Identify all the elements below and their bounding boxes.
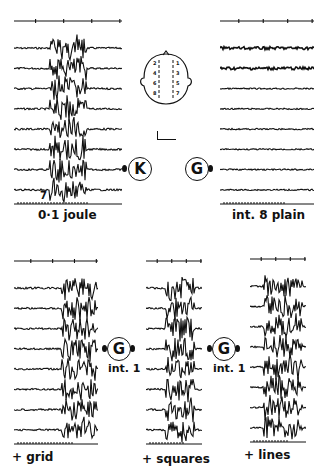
ear-icon	[130, 345, 135, 352]
ear-icon	[102, 345, 107, 352]
electrode-7: 7	[176, 90, 180, 96]
caption-plain: int. 8 plain	[232, 208, 305, 222]
electrode-4: 4	[153, 70, 157, 76]
stimulus-label-grid: int. 1	[108, 362, 141, 375]
eeg-panel-squares	[146, 258, 202, 448]
ear-icon	[208, 165, 213, 172]
stimulus-g-badge: G	[185, 157, 209, 181]
eeg-panel-joule	[14, 18, 122, 208]
electrode-5: 5	[176, 80, 180, 86]
eeg-traces-squares	[146, 258, 202, 448]
ear-icon	[207, 345, 212, 352]
stimulus-k-letter: K	[134, 160, 146, 178]
head-electrode-diagram: 2 4 6 8 1 3 5 7	[136, 48, 196, 112]
stimulus-g-badge-grid: G	[107, 337, 131, 361]
eeg-panel-grid	[14, 258, 98, 448]
caption-squares: + squares	[142, 452, 210, 466]
eeg-panel-lines	[250, 256, 306, 446]
eeg-traces-lines	[250, 256, 306, 446]
caption-lines: + lines	[244, 448, 290, 462]
stimulus-g-badge-squares: G	[212, 337, 236, 361]
stimulus-label-squares: int. 1	[213, 362, 246, 375]
channel-marker: 7	[40, 190, 47, 201]
ear-icon	[122, 165, 127, 172]
stimulus-k-badge: K	[128, 157, 152, 181]
caption-joule: 0·1 joule	[38, 208, 97, 222]
electrode-3: 3	[176, 70, 180, 76]
eeg-traces-joule	[14, 18, 122, 208]
eeg-panel-plain	[220, 18, 314, 208]
eeg-traces-grid	[14, 258, 98, 448]
electrode-8: 8	[153, 90, 157, 96]
ear-icon	[235, 345, 240, 352]
electrode-6: 6	[153, 80, 157, 86]
calibration-scale-bar	[157, 131, 176, 140]
stimulus-g-letter: G	[191, 160, 203, 178]
eeg-traces-plain	[220, 18, 314, 208]
caption-grid: + grid	[12, 450, 53, 464]
electrode-2: 2	[153, 60, 157, 66]
electrode-1: 1	[176, 60, 180, 66]
